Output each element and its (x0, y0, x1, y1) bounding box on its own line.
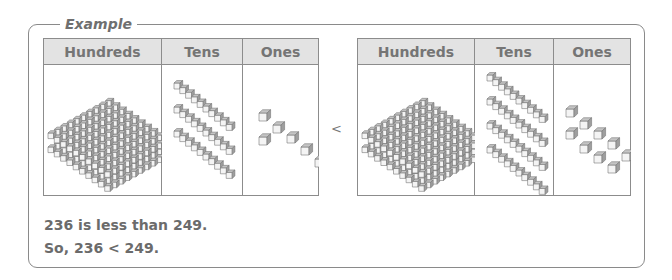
cell-tens (475, 65, 554, 196)
comparison-symbol: < (331, 121, 342, 136)
place-value-table-left: Hundreds Tens Ones (43, 38, 319, 196)
cell-tens (162, 65, 243, 196)
hundreds-blocks-icon (44, 65, 162, 195)
header-tens: Tens (162, 39, 243, 65)
place-value-table-right: Hundreds Tens Ones (357, 38, 631, 196)
example-title: Example (60, 14, 137, 34)
header-ones: Ones (243, 39, 319, 65)
hundreds-blocks-icon (358, 65, 475, 195)
header-ones: Ones (554, 39, 631, 65)
cell-ones (243, 65, 319, 196)
ones-cubes-icon (243, 65, 319, 195)
cell-ones (554, 65, 631, 196)
header-tens: Tens (475, 39, 554, 65)
tens-rods-icon (475, 65, 554, 195)
ones-cubes-icon (554, 65, 631, 195)
tens-rods-icon (162, 65, 243, 195)
statement-line-1: 236 is less than 249. (44, 217, 207, 233)
cell-hundreds (358, 65, 475, 196)
header-hundreds: Hundreds (358, 39, 475, 65)
cell-hundreds (44, 65, 162, 196)
header-hundreds: Hundreds (44, 39, 162, 65)
statement-line-2: So, 236 < 249. (44, 240, 159, 256)
